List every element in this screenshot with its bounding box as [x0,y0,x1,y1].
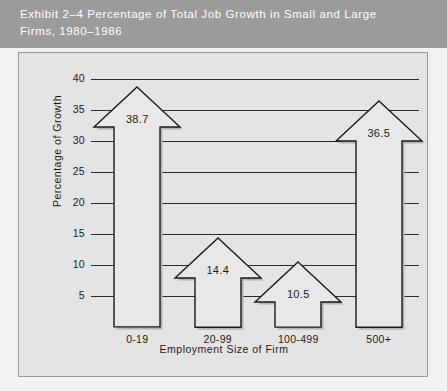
x-axis-category-label: 500+ [334,333,424,345]
y-axis-tick-label: 40 [49,72,85,84]
y-axis-tick-label: 15 [49,227,85,239]
gridline [91,79,419,80]
x-axis-category-label: 100-499 [253,333,343,345]
bar-value-label: 38.7 [107,113,167,125]
y-axis-tick-label: 35 [49,103,85,115]
x-axis-category-label: 20-99 [173,333,263,345]
bar-value-label: 14.4 [188,264,248,276]
y-axis-tick-label: 25 [49,165,85,177]
plot-area: 51015202530354038.70-1914.420-9910.5100-… [19,53,429,378]
y-axis-tick-label: 20 [49,196,85,208]
bar-value-label: 36.5 [349,127,409,139]
y-axis-tick-label: 5 [49,289,85,301]
chart-title: Exhibit 2–4 Percentage of Total Job Grow… [20,6,435,40]
y-axis-tick-label: 10 [49,258,85,270]
chart-title-band: Exhibit 2–4 Percentage of Total Job Grow… [0,0,447,48]
bar-value-label: 10.5 [268,288,328,300]
y-axis-tick-label: 30 [49,134,85,146]
chart-figure: Exhibit 2–4 Percentage of Total Job Grow… [0,0,447,391]
x-axis-category-label: 0-19 [92,333,182,345]
chart-panel: Percentage of Growth Employment Size of … [18,52,428,377]
